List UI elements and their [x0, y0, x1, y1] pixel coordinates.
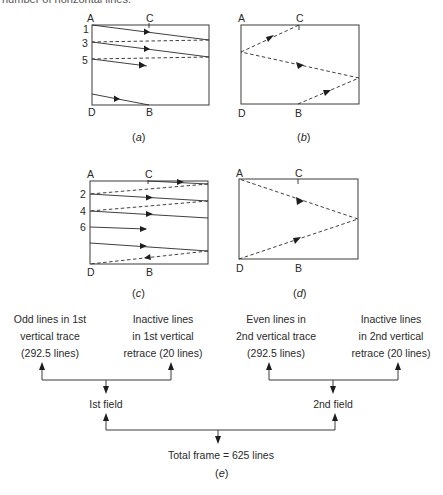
corner-label-a: A: [87, 168, 94, 180]
box-text-line: Inactive lines: [133, 313, 194, 325]
field-1-label: Ist field: [89, 398, 122, 410]
caption-c: (c): [132, 287, 145, 299]
arrow-icon: [144, 29, 150, 36]
box-text-line: in 1st vertical: [132, 330, 193, 342]
arrow-icon: [296, 197, 304, 205]
arrow-icon: [139, 62, 146, 69]
line-number-label: 2: [80, 188, 86, 200]
corner-label-c: C: [295, 167, 303, 179]
panel-c: A C D B 2 4 6 (c): [80, 168, 208, 299]
corner-label-a: A: [238, 12, 245, 24]
scan-line-last: [92, 94, 149, 105]
line-number-label: 1: [83, 23, 89, 35]
box-inactive-2nd: Inactive lines in 2nd vertical retrace (…: [352, 313, 431, 359]
caption-b: (b): [297, 131, 310, 143]
caption-e: (e): [215, 467, 228, 479]
corner-label-d: D: [87, 266, 95, 278]
scan-line-3: [92, 42, 209, 57]
arrow-up-icon: [168, 362, 174, 370]
raster-frame-a: [92, 25, 209, 105]
scan-line-6: [90, 227, 146, 229]
box-text-line: in 2nd vertical: [359, 330, 424, 342]
connector-2nd-field: [269, 367, 398, 380]
arrow-icon: [144, 46, 150, 53]
field-2-label: 2nd field: [313, 398, 353, 410]
corner-label-d: D: [236, 262, 244, 274]
retrace-line: [90, 184, 208, 194]
line-number-label: 4: [80, 205, 86, 217]
arrow-icon: [323, 90, 331, 96]
connector-1st-field: [42, 367, 171, 380]
arrow-icon: [114, 96, 120, 103]
caption-a: (a): [132, 131, 145, 143]
corner-label-c: C: [146, 12, 154, 24]
box-text-line: 2nd vertical trace: [236, 330, 316, 342]
arrow-icon: [146, 211, 153, 217]
corner-label-d: D: [238, 107, 246, 119]
box-odd-lines: Odd lines in 1st vertical trace (292.5 l…: [14, 313, 86, 359]
corner-label-c: C: [296, 12, 304, 24]
line-number-label: 3: [82, 37, 88, 49]
box-text-line: (292.5 lines): [21, 347, 79, 359]
interlaced-scanning-diagram: number of horizontal lines. A C D B 1 3 …: [0, 0, 443, 495]
scan-line-5: [92, 59, 147, 66]
box-even-lines: Even lines in 2nd vertical trace (292.5 …: [236, 313, 316, 359]
arrow-icon: [266, 35, 274, 42]
corner-label-d: D: [88, 106, 96, 118]
box-text-line: retrace (20 lines): [124, 347, 203, 359]
retrace-line: [92, 40, 209, 42]
arrow-icon: [140, 243, 147, 249]
raster-frame-c: [90, 181, 208, 264]
raster-frame-d: [239, 179, 358, 259]
retrace-line: [92, 57, 209, 59]
arrow-icon: [146, 195, 153, 201]
box-text-line: Inactive lines: [361, 313, 422, 325]
corner-label-a: A: [236, 167, 243, 179]
scan-line-1: [92, 25, 209, 40]
panel-d: A C D B (d): [236, 167, 358, 299]
corner-label-b: B: [295, 107, 302, 119]
line-number-label: 5: [82, 54, 88, 66]
total-frame-label: Total frame = 625 lines: [168, 449, 274, 461]
arrow-down-icon: [215, 436, 221, 444]
corner-label-c: C: [145, 168, 153, 180]
box-text-line: Even lines in: [246, 313, 306, 325]
panel-b: A C D B (b): [238, 12, 359, 143]
box-text-line: vertical trace: [20, 330, 80, 342]
caption-d: (d): [293, 287, 306, 299]
arrow-icon: [144, 254, 151, 260]
panel-e-flowchart: Odd lines in 1st vertical trace (292.5 l…: [14, 313, 431, 479]
arrow-icon: [140, 226, 147, 232]
arrow-up-icon: [103, 413, 109, 421]
line-number-label: 6: [80, 221, 86, 233]
arrow-down-icon: [103, 386, 109, 394]
arrow-down-icon: [330, 386, 336, 394]
box-text-line: (292.5 lines): [247, 347, 305, 359]
retrace-line: [90, 201, 208, 211]
box-text-line: retrace (20 lines): [352, 347, 431, 359]
arrow-up-icon: [395, 362, 401, 370]
box-text-line: Odd lines in 1st: [14, 313, 86, 325]
corner-label-b: B: [146, 266, 153, 278]
corner-label-b: B: [146, 106, 153, 118]
arrow-up-icon: [266, 362, 272, 370]
top-fragment-text: number of horizontal lines.: [2, 0, 131, 5]
arrow-up-icon: [332, 413, 338, 421]
scan-line-last: [90, 243, 208, 251]
arrow-up-icon: [39, 362, 45, 370]
panel-a: A C D B 1 3 5 (a): [82, 12, 209, 143]
arrow-icon: [296, 62, 304, 69]
arrow-icon: [293, 237, 301, 244]
arrow-icon: [177, 179, 184, 185]
connector-total: [106, 420, 335, 430]
box-inactive-1st: Inactive lines in 1st vertical retrace (…: [124, 313, 203, 359]
corner-label-b: B: [295, 262, 302, 274]
